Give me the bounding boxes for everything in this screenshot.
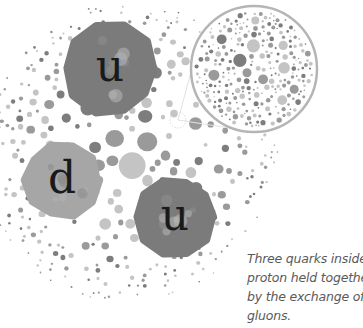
gluon-bubble xyxy=(113,234,118,239)
gluon-bubble-magnified xyxy=(233,73,235,75)
gluon-bubble xyxy=(108,198,114,205)
gluon-bubble xyxy=(30,64,32,66)
gluon-bubble xyxy=(215,258,217,260)
gluon-bubble xyxy=(130,275,134,280)
gluon-bubble-magnified xyxy=(243,68,252,77)
gluon-bubble xyxy=(237,143,242,148)
magnifier-lens xyxy=(191,6,317,132)
gluon-bubble-magnified xyxy=(266,98,271,103)
gluon-bubble xyxy=(20,158,25,163)
gluon-bubble xyxy=(125,265,129,269)
gluon-bubble xyxy=(18,124,23,130)
gluon-bubble xyxy=(19,97,23,101)
gluon-bubble-magnified xyxy=(244,12,247,15)
gluon-bubble-magnified xyxy=(247,18,249,20)
caption-line: by the exchange of xyxy=(247,287,363,306)
gluon-bubble-magnified xyxy=(219,30,222,33)
gluon-bubble xyxy=(204,143,208,147)
gluon-bubble-magnified xyxy=(260,53,265,58)
gluon-bubble-magnified xyxy=(226,18,230,22)
gluon-bubble-magnified xyxy=(233,54,246,67)
gluon-bubble-magnified xyxy=(237,37,242,42)
gluon-bubble-magnified xyxy=(232,93,234,95)
gluon-bubble-magnified xyxy=(244,78,250,84)
gluon-bubble-magnified xyxy=(269,78,275,84)
gluon-bubble-magnified xyxy=(300,91,302,93)
gluon-bubble xyxy=(176,21,179,24)
gluon-bubble xyxy=(155,19,157,21)
gluon-bubble-magnified xyxy=(245,122,248,125)
gluon-bubble xyxy=(159,38,163,42)
gluon-bubble xyxy=(166,100,173,107)
gluon-bubble-magnified xyxy=(277,95,287,105)
gluon-bubble-magnified xyxy=(230,82,233,85)
gluon-bubble xyxy=(191,273,194,276)
gluon-bubble xyxy=(162,32,167,37)
gluon-bubble xyxy=(186,167,197,178)
gluon-bubble-magnified xyxy=(226,67,230,71)
gluon-bubble xyxy=(273,161,275,163)
gluon-bubble xyxy=(213,272,215,274)
gluon-bubble xyxy=(31,232,36,237)
gluon-bubble xyxy=(119,291,122,294)
quark-label-up: u xyxy=(96,44,124,88)
gluon-bubble-magnified xyxy=(275,23,277,25)
gluon-bubble-magnified xyxy=(287,94,291,98)
gluon-bubble xyxy=(161,151,171,161)
gluon-bubble-magnified xyxy=(301,49,305,53)
gluon-bubble xyxy=(26,66,30,70)
gluon-bubble xyxy=(260,186,263,189)
gluon-bubble xyxy=(51,263,53,265)
gluon-bubble xyxy=(164,284,167,287)
gluon-bubble xyxy=(28,84,30,86)
gluon-bubble xyxy=(218,191,226,199)
gluon-bubble-magnified xyxy=(261,25,264,28)
gluon-bubble-magnified xyxy=(213,105,217,109)
gluon-bubble-magnified xyxy=(254,81,256,83)
gluon-bubble xyxy=(20,227,23,230)
gluon-bubble-magnified xyxy=(225,84,228,87)
gluon-bubble xyxy=(101,243,109,250)
gluon-bubble-magnified xyxy=(228,102,231,105)
gluon-bubble-magnified xyxy=(234,50,236,52)
gluon-bubble-magnified xyxy=(277,117,282,122)
gluon-bubble-magnified xyxy=(256,121,259,124)
gluon-bubble-magnified xyxy=(245,110,248,113)
gluon-bubble-magnified xyxy=(207,99,211,103)
gluon-bubble xyxy=(98,292,100,294)
gluon-bubble-magnified xyxy=(206,83,208,85)
gluon-bubble xyxy=(16,116,23,122)
gluon-bubble xyxy=(6,105,10,110)
gluon-bubble xyxy=(249,195,252,198)
gluon-bubble-magnified xyxy=(301,67,304,70)
gluon-bubble xyxy=(33,89,39,95)
gluon-bubble xyxy=(246,177,248,179)
gluon-bubble xyxy=(52,85,57,90)
gluon-bubble xyxy=(225,221,230,226)
gluon-bubble-magnified xyxy=(278,62,290,74)
caption: Three quarks inside a proton held togeth… xyxy=(247,249,363,325)
caption-line: gluons. xyxy=(247,306,363,325)
gluon-bubble xyxy=(71,286,73,288)
gluon-bubble-magnified xyxy=(233,96,237,100)
gluon-bubble-magnified xyxy=(270,13,272,15)
gluon-bubble xyxy=(199,31,201,33)
gluon-bubble-magnified xyxy=(253,26,258,31)
gluon-bubble xyxy=(171,76,175,80)
gluon-bubble-magnified xyxy=(298,38,300,40)
gluon-bubble xyxy=(173,269,176,272)
gluon-bubble xyxy=(20,83,23,86)
gluon-bubble xyxy=(100,10,102,12)
gluon-bubble-magnified xyxy=(256,66,261,71)
gluon-bubble xyxy=(7,214,11,218)
gluon-bubble xyxy=(143,274,147,278)
gluon-bubble xyxy=(99,218,111,229)
gluon-bubble xyxy=(166,20,168,22)
gluon-bubble-magnified xyxy=(277,112,279,114)
gluon-bubble-magnified xyxy=(277,85,280,88)
gluon-bubble-magnified xyxy=(290,85,299,94)
gluon-bubble xyxy=(164,11,166,13)
gluon-bubble-magnified xyxy=(284,79,287,82)
gluon-bubble xyxy=(264,154,267,157)
gluon-bubble-magnified xyxy=(225,52,229,56)
